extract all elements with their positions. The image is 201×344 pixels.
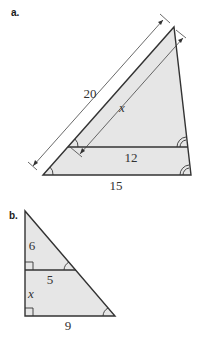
- figure-a-label: a.: [11, 7, 20, 18]
- figure-a-triangle: [43, 27, 191, 175]
- figure-b-triangle: [25, 211, 115, 316]
- figure-b-upper-side-label: 6: [29, 238, 36, 253]
- diagram-canvas: a. 20 x 12 15: [0, 0, 201, 344]
- figure-b-label: b.: [9, 210, 18, 221]
- figure-a-base-label: 15: [110, 178, 123, 193]
- figure-b-lower-side-label: x: [27, 286, 34, 301]
- figure-b: b. 6 5 x 9: [9, 210, 115, 333]
- figure-b-base-label: 9: [65, 318, 72, 333]
- figure-a-side-label-20: 20: [84, 86, 97, 101]
- figure-a-side-label-x: x: [118, 100, 125, 115]
- figure-a: a. 20 x 12 15: [11, 7, 191, 193]
- figure-a-middle-base-label: 12: [125, 150, 138, 165]
- figure-b-middle-base-label: 5: [47, 272, 54, 287]
